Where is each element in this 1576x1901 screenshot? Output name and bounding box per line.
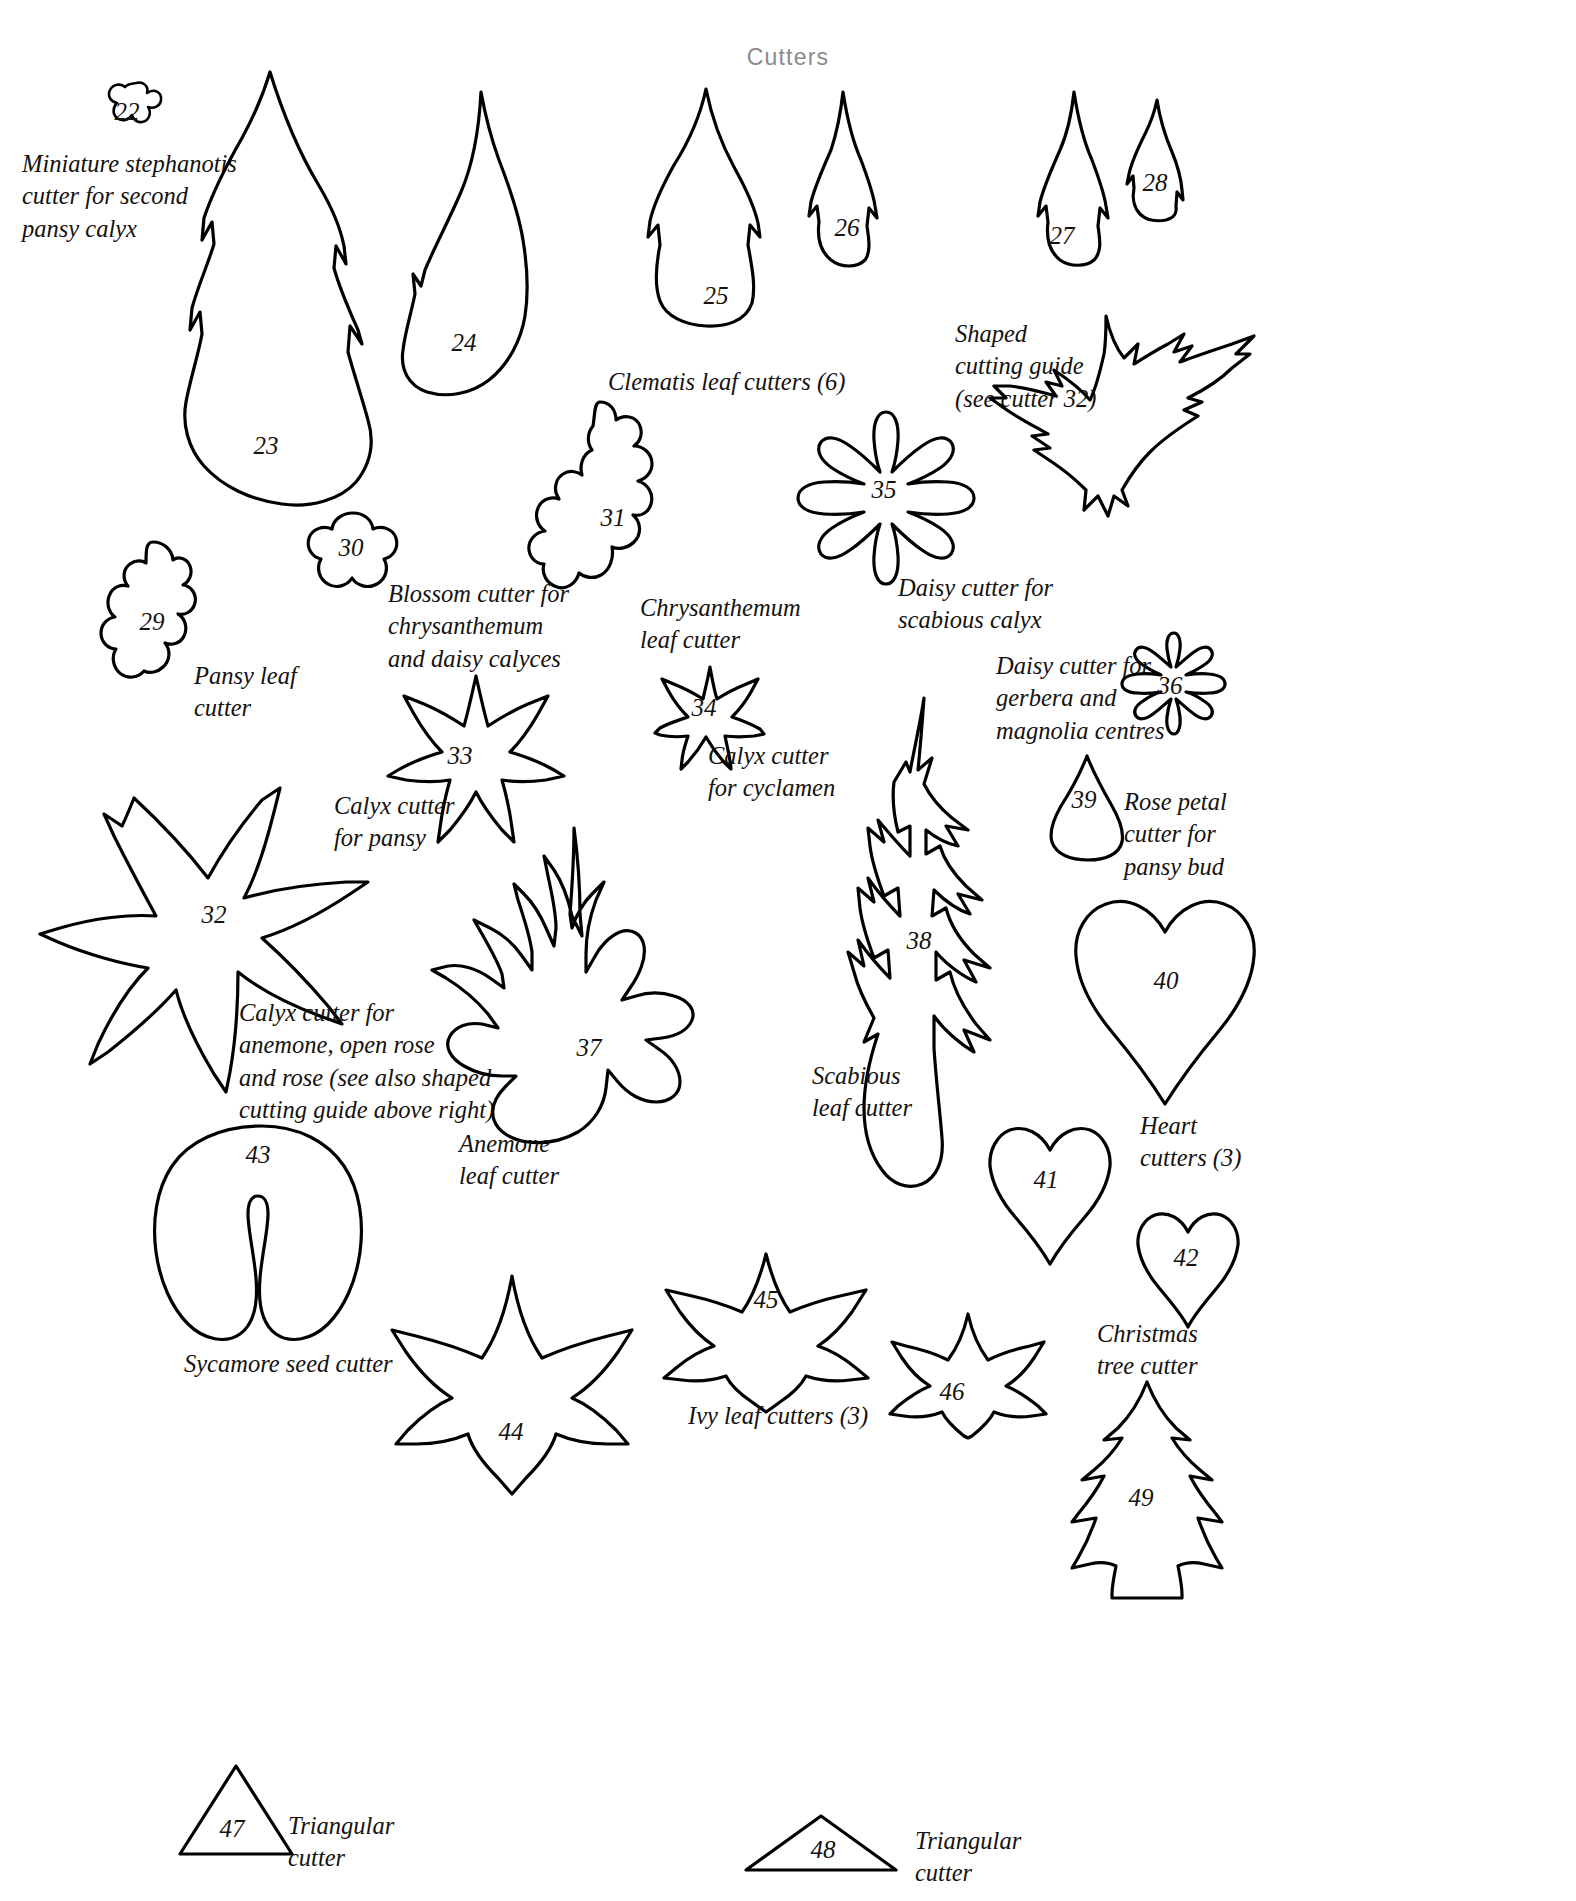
shape-28-clematis-leaf <box>1124 96 1188 222</box>
number-31: 31 <box>601 504 626 532</box>
number-40: 40 <box>1154 967 1179 995</box>
number-45: 45 <box>754 1286 779 1314</box>
number-39: 39 <box>1072 786 1097 814</box>
shape-47-triangular <box>176 1762 296 1858</box>
page-title: Cutters <box>0 44 1576 71</box>
number-26: 26 <box>835 214 860 242</box>
shape-26-clematis-leaf <box>805 88 883 270</box>
number-28: 28 <box>1143 169 1168 197</box>
shape-41-heart <box>988 1126 1112 1268</box>
caption-heart: Heart cutters (3) <box>1140 1110 1340 1175</box>
cutter-templates-page: Cutters 22 Miniature stephanotis cutter … <box>0 0 1576 1901</box>
number-27: 27 <box>1050 222 1075 250</box>
caption-scabious-leaf: Scabious leaf cutter <box>812 1060 1012 1125</box>
number-37: 37 <box>577 1034 602 1062</box>
number-30: 30 <box>339 534 364 562</box>
number-38: 38 <box>907 927 932 955</box>
number-48: 48 <box>811 1836 836 1864</box>
caption-triangular-left: Triangular cutter <box>288 1810 468 1875</box>
caption-chrysanthemum-leaf: Chrysanthemum leaf cutter <box>640 592 880 657</box>
shape-37-anemone-leaf <box>428 824 698 1154</box>
number-29: 29 <box>140 608 165 636</box>
number-42: 42 <box>1174 1244 1199 1272</box>
caption-daisy-scabious: Daisy cutter for scabious calyx <box>898 572 1138 637</box>
number-24: 24 <box>452 329 477 357</box>
number-44: 44 <box>499 1418 524 1446</box>
number-35: 35 <box>872 476 897 504</box>
number-46: 46 <box>940 1378 965 1406</box>
shape-44-ivy-leaf <box>388 1272 634 1508</box>
number-49: 49 <box>1129 1484 1154 1512</box>
number-25: 25 <box>704 282 729 310</box>
number-33: 33 <box>448 742 473 770</box>
shape-46-ivy-leaf <box>888 1310 1048 1438</box>
caption-christmas: Christmas tree cutter <box>1097 1318 1297 1383</box>
number-43: 43 <box>246 1141 271 1169</box>
number-34: 34 <box>692 694 717 722</box>
caption-rose-petal: Rose petal cutter for pansy bud <box>1124 786 1334 883</box>
number-36: 36 <box>1158 672 1183 700</box>
caption-pansy-leaf: Pansy leaf cutter <box>194 660 394 725</box>
shape-45-ivy-leaf <box>660 1250 872 1416</box>
caption-triangular-right: Triangular cutter <box>915 1825 1095 1890</box>
number-22: 22 <box>115 98 140 126</box>
number-41: 41 <box>1034 1166 1059 1194</box>
number-47: 47 <box>220 1815 245 1843</box>
shape-shaped-cutting-guide <box>988 310 1260 538</box>
caption-anemone-leaf: Anemone leaf cutter <box>459 1128 679 1193</box>
number-23: 23 <box>254 432 279 460</box>
number-32: 32 <box>202 901 227 929</box>
shape-40-heart <box>1072 898 1258 1110</box>
